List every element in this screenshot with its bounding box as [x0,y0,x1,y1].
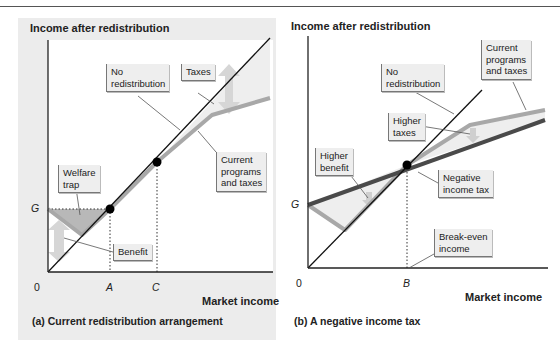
panel-b-g-label: G [291,198,299,210]
point-a [106,205,115,214]
callout-current-programs: Current programs and taxes [216,152,266,192]
panel-b-b-label: B [403,277,410,289]
panel-b-caption: (b) A negative income tax [294,315,420,327]
panel-b-y-axis-title: Income after redistribution [291,20,430,32]
panel-a-caption: (a) Current redistribution arrangement [32,315,223,327]
panel-b-x-axis-title: Market income [465,291,542,303]
callout-current-programs-b: Current programs and taxes [481,40,531,80]
callout-taxes: Taxes [181,64,215,81]
callout-break-even-income: Break-even income [434,229,492,257]
callout-no-redistribution: No redistribution [106,64,169,92]
callout-benefit: Benefit [113,244,152,261]
point-c [153,158,162,167]
callout-no-redistribution-b: No redistribution [381,64,444,92]
point-b [403,161,412,170]
callout-higher-benefit: Higher benefit [315,148,353,176]
panel-a-origin-label: 0 [34,281,40,293]
panel-a-y-axis-title: Income after redistribution [30,22,169,34]
callout-negative-income-tax: Negative income tax [438,170,493,198]
panel-a-g-label: G [31,202,39,214]
panel-a-a-label: A [106,281,113,293]
panel-a-x-axis-title: Market income [202,295,279,307]
panel-b-origin-label: 0 [296,277,302,289]
callout-higher-taxes: Higher taxes [388,113,425,141]
callout-welfare-trap: Welfare trap [58,165,100,193]
panel-a-c-label: C [152,281,160,293]
